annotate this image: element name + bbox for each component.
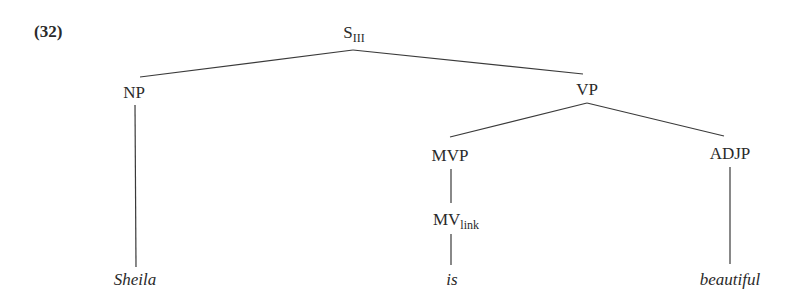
branch-vp-mvp bbox=[450, 103, 587, 137]
node-np: NP bbox=[123, 84, 145, 101]
node-mv-subscript: link bbox=[460, 218, 479, 232]
node-s-subscript: III bbox=[353, 31, 365, 45]
branch-vp-adjp bbox=[587, 103, 724, 136]
branch-s-vp bbox=[353, 50, 583, 74]
node-mvp: MVP bbox=[432, 147, 469, 164]
tree-branches bbox=[0, 0, 806, 295]
node-mv-link: MVlink bbox=[433, 211, 479, 228]
node-adjp: ADJP bbox=[710, 145, 751, 162]
leaf-sheila: Sheila bbox=[114, 271, 157, 288]
node-vp: VP bbox=[576, 81, 598, 98]
leaf-beautiful: beautiful bbox=[700, 271, 760, 288]
branch-np-sheila bbox=[135, 105, 136, 267]
node-s: SIII bbox=[343, 24, 364, 41]
branch-s-np bbox=[140, 50, 353, 77]
node-mv-label: MV bbox=[433, 210, 460, 229]
leaf-is: is bbox=[446, 271, 457, 288]
